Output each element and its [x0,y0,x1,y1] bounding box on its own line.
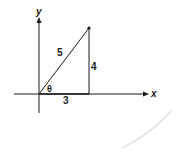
y-axis-arrow-icon [37,17,42,23]
x-axis-label: x [151,89,157,99]
hypotenuse-label: 5 [57,48,63,58]
triangle-diagram [0,0,181,165]
adjacent-label: 3 [63,96,69,106]
opposite-label: 4 [91,62,97,72]
decorative-arc [122,110,172,148]
x-axis-arrow-icon [143,92,149,97]
y-axis-label: y [36,7,42,17]
angle-label: θ [47,85,52,94]
vertex-point [87,26,90,29]
